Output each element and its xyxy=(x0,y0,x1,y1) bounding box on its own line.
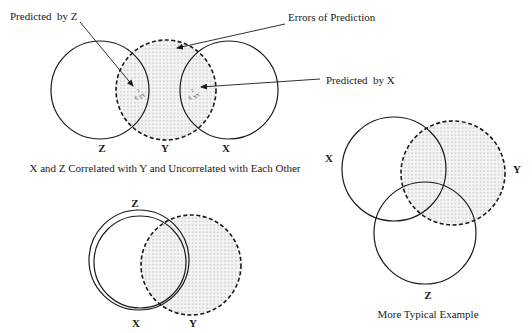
arrow-predicted-by-x xyxy=(201,79,320,87)
label-x-bottom-left: X xyxy=(132,317,140,329)
caption-top: X and Z Correlated with Y and Uncorrelat… xyxy=(29,162,300,174)
label-y-top: Y xyxy=(161,142,169,154)
annotation-errors-of-prediction: Errors of Prediction xyxy=(288,11,376,23)
label-x-right: X xyxy=(325,152,333,164)
label-z-right: Z xyxy=(424,289,431,301)
circle-y-bottom-left xyxy=(141,215,241,315)
diagram-right-typical: X Y Z More Typical Example xyxy=(325,117,521,320)
label-z-bottom-left: Z xyxy=(131,197,138,209)
arrow-errors-of-prediction xyxy=(177,24,285,48)
circle-y-right xyxy=(401,121,505,225)
label-y-bottom-left: Y xyxy=(189,317,197,329)
annotation-predicted-by-x: Predicted by X xyxy=(326,74,395,86)
annotation-predicted-by-z: Predicted by Z xyxy=(10,10,78,22)
diagram-bottom-left-collinear: Z X Y xyxy=(89,197,241,329)
label-z-top: Z xyxy=(98,142,105,154)
arrow-predicted-by-z xyxy=(80,22,133,86)
label-y-right: Y xyxy=(513,163,521,175)
caption-right: More Typical Example xyxy=(377,308,478,320)
venn-diagram-figure: ε ZY 2 ε XY 2 Predicted by Z Errors of P… xyxy=(0,0,532,333)
diagram-top-uncorrelated: ε ZY 2 ε XY 2 Predicted by Z Errors of P… xyxy=(10,10,395,174)
circle-y-top xyxy=(116,40,216,140)
label-x-top: X xyxy=(222,142,230,154)
